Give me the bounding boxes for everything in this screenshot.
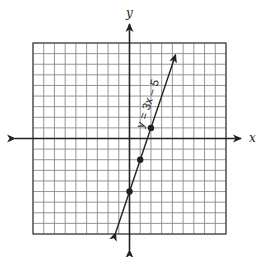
coordinate-plane: x y y = 3x – 5 bbox=[0, 0, 265, 257]
y-axis-label: y bbox=[125, 6, 133, 20]
plotted-point bbox=[126, 188, 132, 194]
x-axis-label: x bbox=[249, 131, 256, 145]
plotted-point bbox=[148, 125, 154, 131]
plotted-point bbox=[137, 157, 143, 163]
function-line bbox=[116, 55, 176, 233]
